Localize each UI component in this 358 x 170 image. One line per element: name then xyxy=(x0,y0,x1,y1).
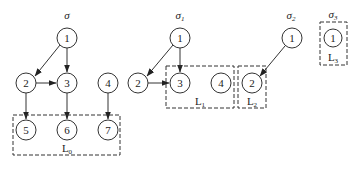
box-label: L1 xyxy=(195,95,206,109)
svg-text:3: 3 xyxy=(64,77,70,89)
graph-sigma-3: σ3 L3 1 xyxy=(320,8,347,65)
node-1: 1 xyxy=(282,28,302,48)
svg-text:3: 3 xyxy=(177,77,183,89)
box-label: L3 xyxy=(328,51,339,65)
node-7: 7 xyxy=(98,120,118,140)
box-label: L2 xyxy=(247,95,258,109)
graph-sigma-1: σ1 L1 1 2 3 4 xyxy=(128,9,234,109)
node-2: 2 xyxy=(16,73,36,93)
svg-text:1: 1 xyxy=(289,32,295,44)
svg-text:7: 7 xyxy=(105,124,111,136)
edge-1-2 xyxy=(260,46,285,76)
node-1: 1 xyxy=(324,29,342,47)
node-3: 3 xyxy=(57,73,77,93)
graph-sigma-2: σ2 L2 1 2 xyxy=(238,9,302,109)
node-1: 1 xyxy=(57,28,77,48)
graph-title: σ xyxy=(64,9,70,21)
svg-text:6: 6 xyxy=(64,124,70,136)
node-3: 3 xyxy=(170,73,190,93)
node-2: 2 xyxy=(128,73,148,93)
svg-text:4: 4 xyxy=(105,77,111,89)
svg-text:2: 2 xyxy=(23,77,29,89)
svg-text:1: 1 xyxy=(330,32,336,44)
svg-text:4: 4 xyxy=(218,77,224,89)
graph-title: σ3 xyxy=(329,8,338,22)
svg-text:5: 5 xyxy=(23,124,29,136)
node-6: 6 xyxy=(57,120,77,140)
svg-text:1: 1 xyxy=(177,32,183,44)
graph-sigma: σ L0 1 2 3 4 5 6 7 xyxy=(13,9,120,156)
svg-text:2: 2 xyxy=(135,77,141,89)
node-2: 2 xyxy=(242,73,262,93)
diagram-canvas: σ L0 1 2 3 4 5 6 7 σ1 L1 1 2 3 4 σ2 L2 xyxy=(0,0,358,170)
node-1: 1 xyxy=(170,28,190,48)
edge-1-2 xyxy=(35,45,60,76)
svg-text:2: 2 xyxy=(249,77,255,89)
node-4: 4 xyxy=(211,73,231,93)
edge-1-2 xyxy=(147,45,173,76)
node-4: 4 xyxy=(98,73,118,93)
box-label: L0 xyxy=(62,142,73,156)
graph-title: σ2 xyxy=(287,9,296,23)
graph-title: σ1 xyxy=(176,9,185,23)
svg-text:1: 1 xyxy=(64,32,70,44)
node-5: 5 xyxy=(16,120,36,140)
